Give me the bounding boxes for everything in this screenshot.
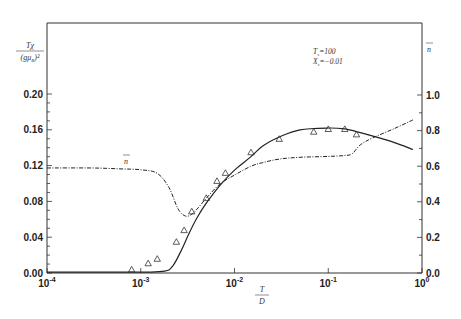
x-tick-label: 10-2 [226, 276, 243, 289]
data-point-triangle [311, 129, 317, 135]
y-tick-label-left: 0.20 [24, 89, 44, 100]
y-tick-label-right: 1.0 [426, 90, 440, 101]
parameter-annotation: Ts=100 Xs=−0.01 [312, 47, 343, 67]
data-point-triangle [181, 227, 187, 233]
x-tick-label: 10-4 [38, 276, 55, 289]
data-point-triangle [145, 260, 151, 266]
left-axis: 0.000.040.080.120.160.20 [24, 89, 52, 279]
chart: 0.000.040.080.120.160.20 0.00.20.40.60.8… [0, 0, 461, 319]
svg-text:(gμB)²: (gμB)² [21, 53, 40, 63]
x-tick-label: 100 [414, 276, 429, 289]
y-tick-label-left: 0.16 [24, 124, 44, 135]
y-tick-label-right: 0.4 [426, 196, 440, 207]
svg-text:Ts=100: Ts=100 [313, 47, 336, 57]
y-tick-label-right: 0.2 [426, 232, 440, 243]
y-tick-label-left: 0.00 [24, 268, 44, 279]
nbar-curve-label: n [123, 155, 130, 166]
svg-text:Xs=−0.01: Xs=−0.01 [312, 57, 343, 67]
data-point-triangle [173, 239, 179, 245]
series-layer [47, 120, 413, 272]
data-point-triangle [189, 208, 195, 214]
data-point-triangle [154, 256, 160, 262]
data-point-triangle [214, 178, 220, 184]
susceptibility-curve [47, 128, 413, 272]
svg-text:n: n [124, 157, 128, 166]
plot-frame [47, 23, 422, 273]
y-tick-label-left: 0.08 [24, 196, 44, 207]
svg-text:n: n [427, 45, 431, 54]
y-tick-label-left: 0.04 [24, 232, 44, 243]
svg-text:Tχ: Tχ [26, 41, 34, 50]
left-axis-title: Tχ (gμB)² [16, 41, 44, 63]
right-axis: 0.00.20.40.60.81.0 [417, 90, 440, 279]
y-tick-label-right: 0.6 [426, 161, 440, 172]
data-point-triangle [222, 170, 228, 176]
x-axis-title: T D [255, 285, 269, 306]
data-point-triangle [128, 266, 134, 272]
x-axis: 10-410-310-210-1100 [38, 268, 429, 289]
y-tick-label-left: 0.12 [24, 160, 44, 171]
svg-text:T: T [260, 285, 265, 294]
y-tick-label-right: 0.8 [426, 125, 440, 136]
data-point-triangle [325, 126, 331, 132]
svg-text:D: D [258, 297, 265, 306]
x-tick-label: 10-1 [320, 276, 337, 289]
right-axis-title: n [426, 43, 433, 54]
x-tick-label: 10-3 [132, 276, 149, 289]
